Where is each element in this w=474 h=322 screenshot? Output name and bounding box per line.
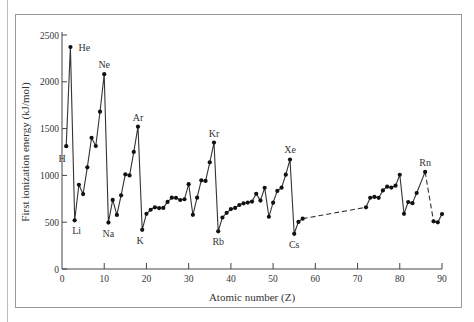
- data-point: [199, 178, 203, 182]
- data-point: [364, 205, 368, 209]
- data-point: [203, 179, 207, 183]
- data-point: [174, 196, 178, 200]
- x-tick-label: 20: [142, 274, 152, 284]
- data-point: [250, 200, 254, 204]
- element-labels: HHeLiNeNaArKKrRbXeCsRn: [59, 42, 431, 250]
- x-tick-label: 10: [99, 274, 109, 284]
- data-point: [77, 183, 81, 187]
- data-point: [178, 198, 182, 202]
- element-label-he: He: [78, 42, 90, 53]
- data-point: [389, 185, 393, 189]
- dashed-gap-line: [425, 172, 433, 221]
- data-points: [64, 45, 444, 236]
- data-point: [98, 110, 102, 114]
- element-label-li: Li: [72, 225, 81, 236]
- data-point: [440, 212, 444, 216]
- data-point: [275, 189, 279, 193]
- element-label-kr: Kr: [209, 128, 220, 139]
- x-tick-label: 0: [60, 274, 65, 284]
- y-tick-label: 0: [54, 265, 59, 275]
- data-point: [377, 196, 381, 200]
- y-axis-label: First ionization energy (kJ/mol): [19, 82, 32, 222]
- data-point: [271, 201, 275, 205]
- x-tick-label: 90: [437, 274, 447, 284]
- data-point: [102, 72, 106, 76]
- data-point: [94, 144, 98, 148]
- data-point: [406, 200, 410, 204]
- data-point: [385, 185, 389, 189]
- data-point: [220, 215, 224, 219]
- data-point: [119, 193, 123, 197]
- element-label-cs: Cs: [289, 239, 300, 250]
- data-point: [111, 198, 115, 202]
- data-point: [296, 220, 300, 224]
- data-point: [225, 211, 229, 215]
- data-lines: [66, 47, 442, 234]
- x-tick-label: 50: [268, 274, 278, 284]
- data-point: [64, 144, 68, 148]
- x-tick-label: 60: [311, 274, 321, 284]
- data-point: [233, 206, 237, 210]
- data-point: [170, 196, 174, 200]
- element-label-ne: Ne: [98, 59, 110, 70]
- data-point: [241, 201, 245, 205]
- element-label-na: Na: [103, 228, 115, 239]
- data-point: [191, 213, 195, 217]
- series-line: [66, 47, 303, 234]
- data-point: [431, 219, 435, 223]
- data-point: [89, 136, 93, 140]
- data-point: [258, 198, 262, 202]
- data-point: [292, 232, 296, 236]
- data-point: [123, 172, 127, 176]
- data-point: [182, 197, 186, 201]
- data-point: [436, 220, 440, 224]
- data-point: [423, 170, 427, 174]
- element-label-ar: Ar: [133, 112, 144, 123]
- data-point: [208, 160, 212, 164]
- y-tick-label: 2000: [40, 77, 59, 87]
- x-tick-label: 70: [353, 274, 363, 284]
- data-point: [398, 173, 402, 177]
- data-point: [254, 192, 258, 196]
- data-point: [161, 206, 165, 210]
- element-label-rb: Rb: [212, 236, 224, 247]
- data-point: [229, 207, 233, 211]
- data-point: [393, 184, 397, 188]
- chart-figure: 050010001500200025000102030405060708090 …: [0, 0, 474, 322]
- data-point: [263, 186, 267, 190]
- element-label-h: H: [59, 153, 66, 164]
- data-point: [415, 191, 419, 195]
- data-point: [73, 218, 77, 222]
- data-point: [284, 173, 288, 177]
- data-point: [402, 212, 406, 216]
- x-tick-label: 30: [184, 274, 194, 284]
- data-point: [381, 188, 385, 192]
- data-point: [144, 212, 148, 216]
- data-point: [115, 213, 119, 217]
- data-point: [81, 192, 85, 196]
- data-point: [301, 217, 305, 221]
- data-point: [140, 228, 144, 232]
- dashed-gap-line: [303, 207, 366, 218]
- data-point: [68, 45, 72, 49]
- data-point: [368, 196, 372, 200]
- data-point: [267, 215, 271, 219]
- element-label-k: K: [137, 235, 145, 246]
- data-point: [187, 182, 191, 186]
- data-point: [410, 201, 414, 205]
- data-point: [279, 186, 283, 190]
- data-point: [132, 150, 136, 154]
- data-point: [157, 206, 161, 210]
- data-point: [153, 205, 157, 209]
- data-point: [85, 165, 89, 169]
- data-point: [288, 157, 292, 161]
- x-axis-label: Atomic number (Z): [209, 291, 295, 304]
- data-point: [165, 200, 169, 204]
- data-point: [237, 203, 241, 207]
- data-point: [212, 140, 216, 144]
- data-point: [372, 195, 376, 199]
- y-tick-label: 1500: [40, 124, 59, 134]
- data-point: [246, 200, 250, 204]
- element-label-rn: Rn: [419, 157, 431, 168]
- y-tick-label: 2500: [40, 31, 59, 41]
